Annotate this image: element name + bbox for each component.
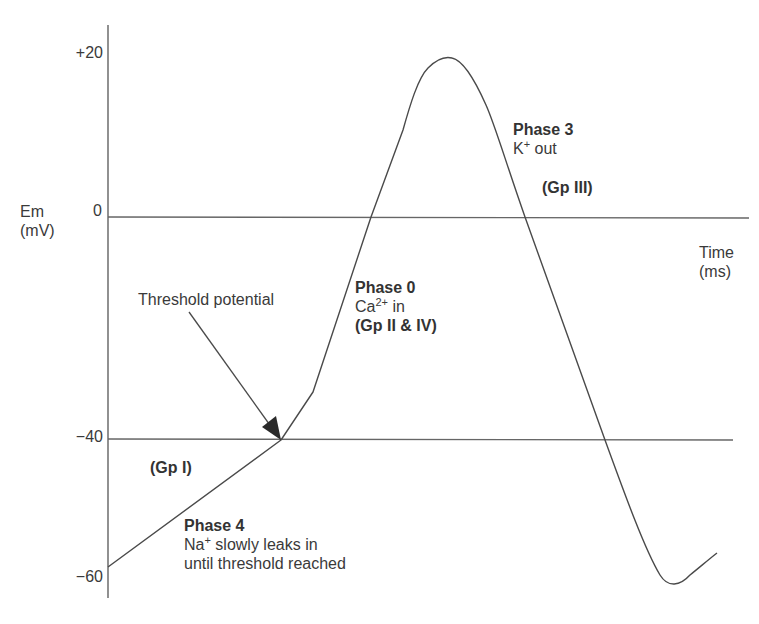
phase4-title: Phase 4 — [184, 516, 346, 535]
phase0-ion: Ca2+ in — [355, 297, 437, 316]
phase3-group: (Gp III) — [542, 178, 593, 197]
threshold-potential-label: Threshold potential — [138, 290, 274, 309]
phase0-title: Phase 0 — [355, 278, 437, 297]
phase3-title: Phase 3 — [513, 120, 573, 139]
phase4-ion: Na+ slowly leaks in — [184, 535, 346, 554]
y-axis-label: Em (mV) — [20, 202, 55, 240]
y-axis-label-em: Em — [20, 202, 55, 221]
tick-minus-60: −60 — [53, 568, 103, 586]
zero-mv-line — [108, 217, 749, 218]
x-axis-label-time: Time — [699, 243, 734, 262]
x-axis-label: Time (ms) — [699, 243, 734, 281]
x-axis-label-unit: (ms) — [699, 262, 734, 281]
phase0-annotation: Phase 0 Ca2+ in (Gp II & IV) — [355, 278, 437, 335]
tick-plus-20: +20 — [53, 44, 103, 62]
threshold-mv-line — [108, 439, 733, 440]
tick-0: 0 — [52, 202, 102, 220]
threshold-arrow-shaft — [189, 312, 272, 428]
phase3-ion: K+ out — [513, 139, 573, 158]
phase4-annotation: Phase 4 Na+ slowly leaks in until thresh… — [184, 516, 346, 573]
y-axis-label-unit: (mV) — [20, 221, 55, 240]
tick-minus-40: −40 — [53, 428, 103, 446]
phase0-group: (Gp II & IV) — [355, 316, 437, 335]
phase3-annotation: Phase 3 K+ out — [513, 120, 573, 158]
gp1-label: (Gp I) — [150, 458, 192, 477]
threshold-arrowhead-icon — [262, 416, 281, 440]
phase4-line2: until threshold reached — [184, 554, 346, 573]
